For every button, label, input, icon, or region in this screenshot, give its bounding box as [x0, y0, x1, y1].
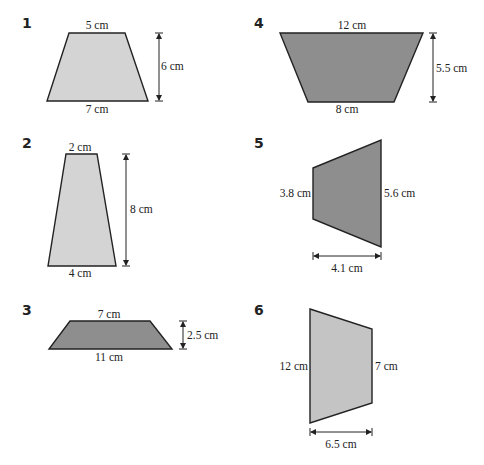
left-label: 3.8 cm [280, 187, 311, 199]
bottom-label: 4 cm [69, 267, 92, 279]
problem-number: 4 [254, 15, 264, 31]
height-label: 5.5 cm [436, 62, 467, 74]
trapezoid-shape [48, 154, 116, 266]
problem-4: 4 12 cm 8 cm 5.5 cm [254, 15, 467, 115]
bottom-label: 11 cm [95, 351, 123, 363]
trapezoid-shape [313, 140, 381, 247]
problem-number: 6 [254, 302, 264, 318]
height-label: 2.5 cm [187, 329, 218, 341]
problem-number: 2 [22, 135, 32, 151]
problem-5: 5 3.8 cm 5.6 cm 4.1 cm [254, 135, 415, 274]
bottom-label: 7 cm [86, 103, 109, 115]
problem-2: 2 2 cm 4 cm 8 cm [22, 135, 153, 279]
top-label: 2 cm [69, 141, 92, 153]
top-label: 7 cm [98, 308, 121, 320]
top-label: 12 cm [338, 19, 366, 31]
top-label: 5 cm [86, 19, 109, 31]
bottom-label: 8 cm [336, 103, 359, 115]
problem-number: 3 [22, 302, 32, 318]
trapezoid-shape [280, 33, 423, 102]
problem-6: 6 12 cm 7 cm 6.5 cm [254, 302, 398, 450]
trapezoid-shape [47, 33, 148, 101]
problem-3: 3 7 cm 11 cm 2.5 cm [22, 302, 218, 363]
height-label: 8 cm [130, 203, 153, 215]
trapezoid-shape [49, 321, 172, 349]
right-label: 7 cm [375, 360, 398, 372]
width-label: 4.1 cm [331, 262, 362, 274]
problem-1: 1 5 cm 7 cm 6 cm [22, 15, 184, 115]
height-label: 6 cm [161, 60, 184, 72]
problem-number: 5 [254, 135, 264, 151]
problem-number: 1 [22, 15, 32, 31]
right-label: 5.6 cm [384, 187, 415, 199]
width-label: 6.5 cm [325, 438, 356, 450]
left-label: 12 cm [280, 360, 308, 372]
trapezoid-shape [310, 309, 372, 423]
